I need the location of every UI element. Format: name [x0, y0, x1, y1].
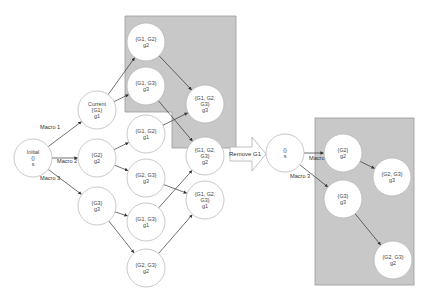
node-label-line: {G2, G3}: [382, 171, 403, 177]
node-label-line: {}: [283, 147, 287, 153]
node-label-line: {}: [31, 155, 35, 161]
node-label-line: g2: [340, 153, 346, 159]
edge-g2-to-g1g2_g1: [114, 143, 128, 150]
node-label-line: g3: [143, 86, 149, 92]
edge-label: Macro 3: [40, 175, 60, 181]
state-node-g2: {G2}g2: [78, 139, 116, 177]
state-node-g1g3_g1: {G1, G3}g1: [127, 203, 165, 241]
edge-g3-to-g1g3_g1: [115, 212, 127, 216]
node-label-line: g3: [143, 178, 149, 184]
state-node-r_g2: {G2}g2: [324, 134, 362, 172]
node-label-line: Current: [88, 101, 106, 107]
node-label-line: g2: [390, 260, 396, 266]
node-label-line: s: [284, 153, 287, 159]
state-node-all_g3: {G1, G2,G3}g3: [186, 85, 224, 123]
node-label-line: Initial: [27, 149, 40, 155]
state-node-initial: Initial{}s: [14, 139, 52, 177]
remove-g1-label: Remove G1: [229, 151, 262, 157]
state-node-g2g3_g3: {G2, G3}g3: [127, 159, 165, 197]
node-label-line: {G3}: [338, 193, 349, 199]
state-node-r_s: {}s: [266, 134, 304, 172]
node-label-line: {G2, G3}: [136, 262, 157, 268]
node-label-line: {G1, G3}: [136, 80, 157, 86]
state-node-all_g2: {G1, G2,G3}g2: [186, 137, 224, 175]
state-node-all_g1: {G1, G2,G3}g1: [186, 181, 224, 219]
node-label-line: g1: [202, 203, 208, 209]
node-label-line: g2: [202, 159, 208, 165]
edge-label: Macro 3: [290, 173, 310, 179]
state-node-current_g1: Current{G1}g1: [78, 91, 116, 129]
node-label-line: {G1, G2}: [136, 128, 157, 134]
node-label-line: g1: [143, 134, 149, 140]
state-node-r_g2g3_g2: {G2, G3}g2: [374, 241, 412, 279]
state-node-g1g2_g1: {G1, G2}g1: [127, 115, 165, 153]
node-label-line: {G2}: [92, 152, 103, 158]
state-node-r_g2g3_g3: {G2, G3}g3: [373, 158, 411, 196]
node-label-line: {G2}: [338, 147, 349, 153]
node-label-line: g2: [143, 268, 149, 274]
edge-initial-to-g3: [48, 169, 81, 194]
edge-label: Macro 2: [57, 158, 77, 164]
node-label-line: {G1, G2,: [195, 191, 216, 197]
node-label-line: {G1}: [92, 107, 103, 113]
node-label-line: {G1, G3}: [136, 216, 157, 222]
state-node-g1g2_g2: {G1, G2}g2: [127, 23, 165, 61]
node-label-line: g1: [94, 113, 100, 119]
node-label-line: {G1, G2,: [195, 95, 216, 101]
node-label-line: G3}: [201, 197, 210, 203]
edge-g2-to-g2g3_g3: [115, 165, 128, 170]
node-label-line: G3}: [201, 101, 210, 107]
state-node-r_g3: {G3}g3: [324, 180, 362, 218]
node-label-line: {G3}: [92, 200, 103, 206]
node-label-line: {G2, G3}: [383, 254, 404, 260]
node-label-line: g2: [94, 158, 100, 164]
node-label-line: g1: [143, 222, 149, 228]
node-label-line: s: [32, 161, 35, 167]
node-label-line: g3: [202, 107, 208, 113]
node-label-line: {G2, G3}: [136, 172, 157, 178]
state-node-g2g3_g2: {G2, G3}g2: [127, 249, 165, 287]
node-label-line: g3: [389, 177, 395, 183]
state-node-g3: {G3}g3: [78, 187, 116, 225]
node-label-line: {G1, G2}: [136, 36, 157, 42]
diagram-canvas: Remove G1 Macro 1Macro 2Macro 3Macro 2Ma…: [0, 0, 432, 298]
node-label-line: g3: [340, 199, 346, 205]
edge-label: Macro 1: [40, 124, 60, 130]
node-label-line: {G1, G2,: [195, 147, 216, 153]
node-label-line: G3}: [201, 153, 210, 159]
node-label-line: g2: [143, 42, 149, 48]
state-node-g1g3_g3: {G1, G3}g3: [127, 67, 165, 105]
node-label-line: g3: [94, 206, 100, 212]
